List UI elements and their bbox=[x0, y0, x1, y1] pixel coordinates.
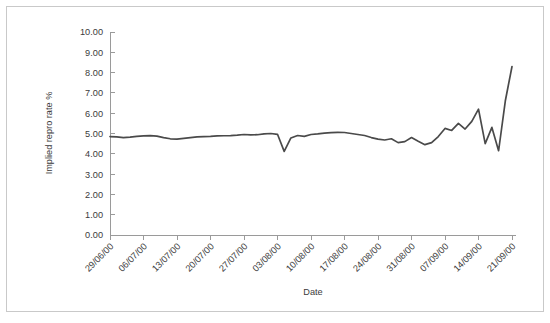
y-axis-tick-marks bbox=[110, 32, 115, 235]
data-series-line bbox=[110, 67, 512, 152]
y-tick-label: 5.00 bbox=[85, 129, 103, 139]
y-tick-label: 7.00 bbox=[85, 88, 103, 98]
line-chart: 0.001.002.003.004.005.006.007.008.009.00… bbox=[0, 0, 550, 323]
y-tick-label: 8.00 bbox=[85, 68, 103, 78]
y-tick-label: 9.00 bbox=[85, 48, 103, 58]
x-tick-label: 20/07/00 bbox=[184, 241, 216, 273]
x-tick-label: 21/09/00 bbox=[485, 241, 517, 273]
x-axis-tick-marks bbox=[110, 235, 512, 240]
x-tick-label: 31/08/00 bbox=[385, 241, 417, 273]
x-tick-label: 14/09/00 bbox=[452, 241, 484, 273]
x-tick-label: 07/09/00 bbox=[418, 241, 450, 273]
chart-figure: 0.001.002.003.004.005.006.007.008.009.00… bbox=[0, 0, 550, 323]
y-axis-title: Implied repro rate % bbox=[44, 92, 54, 175]
x-axis-title: Date bbox=[303, 287, 322, 297]
y-tick-label: 6.00 bbox=[85, 109, 103, 119]
y-tick-label: 2.00 bbox=[85, 190, 103, 200]
y-axis-tick-labels: 0.001.002.003.004.005.006.007.008.009.00… bbox=[80, 27, 103, 240]
x-tick-label: 10/08/00 bbox=[284, 241, 316, 273]
x-tick-label: 13/07/00 bbox=[150, 241, 182, 273]
x-tick-label: 29/06/00 bbox=[83, 241, 115, 273]
y-tick-label: 1.00 bbox=[85, 210, 103, 220]
y-tick-label: 4.00 bbox=[85, 149, 103, 159]
x-axis-tick-labels: 29/06/0006/07/0013/07/0020/07/0027/07/00… bbox=[83, 241, 517, 273]
x-tick-label: 24/08/00 bbox=[351, 241, 383, 273]
y-tick-label: 10.00 bbox=[80, 27, 103, 37]
x-tick-label: 06/07/00 bbox=[117, 241, 149, 273]
x-tick-label: 03/08/00 bbox=[251, 241, 283, 273]
x-tick-label: 17/08/00 bbox=[318, 241, 350, 273]
y-tick-label: 3.00 bbox=[85, 170, 103, 180]
x-tick-label: 27/07/00 bbox=[217, 241, 249, 273]
y-tick-label: 0.00 bbox=[85, 230, 103, 240]
